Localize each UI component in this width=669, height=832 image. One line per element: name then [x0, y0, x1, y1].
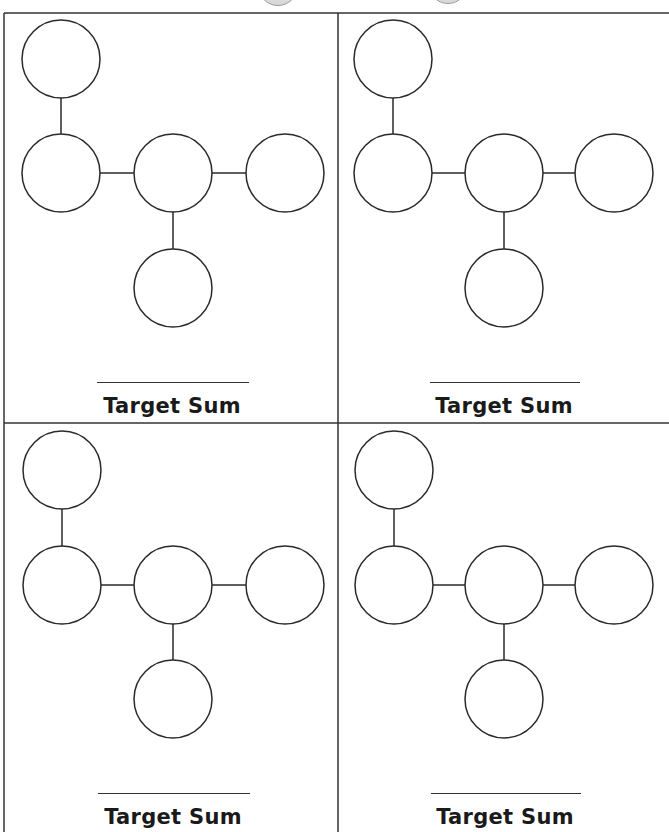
number-circle-left[interactable] — [354, 134, 432, 212]
target-sum-label: Target Sum — [405, 806, 605, 828]
number-circle-bottom[interactable] — [134, 660, 212, 738]
number-circle-bottom[interactable] — [134, 249, 212, 327]
number-circle-right[interactable] — [246, 134, 324, 212]
target-sum-label: Target Sum — [73, 806, 273, 828]
target-sum-input-line[interactable] — [97, 382, 249, 383]
panel-bottom-right-diagram — [355, 431, 653, 738]
target-sum-label: Target Sum — [72, 395, 272, 417]
number-circle-top[interactable] — [22, 20, 100, 98]
number-circle-left[interactable] — [22, 134, 100, 212]
number-circle-top[interactable] — [354, 20, 432, 98]
number-circle-bottom[interactable] — [465, 249, 543, 327]
number-circle-center[interactable] — [134, 546, 212, 624]
number-circle-center[interactable] — [465, 546, 543, 624]
panel-top-left-diagram — [22, 20, 324, 327]
number-circle-left[interactable] — [23, 546, 101, 624]
panel-top-right-diagram — [354, 20, 653, 327]
target-sum-input-line[interactable] — [98, 793, 250, 794]
number-circle-right[interactable] — [246, 546, 324, 624]
number-circle-bottom[interactable] — [465, 660, 543, 738]
target-sum-input-line[interactable] — [431, 793, 581, 794]
number-circle-center[interactable] — [134, 134, 212, 212]
number-circle-right[interactable] — [575, 546, 653, 624]
number-circle-left[interactable] — [355, 546, 433, 624]
panel-bottom-left-diagram — [23, 431, 324, 738]
target-sum-label: Target Sum — [404, 395, 604, 417]
target-sum-input-line[interactable] — [430, 382, 580, 383]
number-circle-center[interactable] — [465, 134, 543, 212]
number-circle-top[interactable] — [355, 431, 433, 509]
worksheet: Target Sum Target Sum Target Sum Target … — [0, 0, 669, 832]
number-circle-top[interactable] — [23, 431, 101, 509]
number-circle-right[interactable] — [575, 134, 653, 212]
